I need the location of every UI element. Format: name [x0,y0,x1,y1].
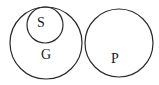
set-s-label: S [37,15,45,30]
set-p-label: P [111,51,119,66]
set-s-circle [27,7,63,43]
set-p-circle [85,9,153,77]
diagram-canvas: S G P [0,0,159,85]
set-g-label: G [41,47,51,62]
euler-diagram: S G P [0,0,159,85]
